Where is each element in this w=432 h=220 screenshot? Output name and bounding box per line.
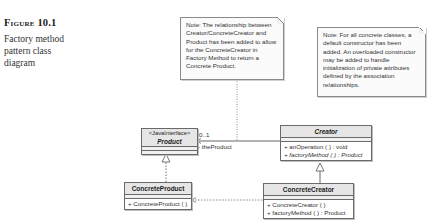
class-product: <JavaInterface> Product [141,128,198,155]
class-concrete-product: ConcreteProduct + ConcreteProduct ( ) [124,182,192,210]
class-product-header: <JavaInterface> Product [142,129,197,147]
association-multiplicity: 0..1 [199,131,209,138]
class-concrete-product-operations: + ConcreteProduct ( ) [125,199,191,209]
class-concrete-creator-operations: + ConcreteCreator ( ) + factoryMethod ( … [264,200,353,218]
class-concrete-creator-name: ConcreteCreator [264,184,353,196]
class-product-stereotype: <JavaInterface> [142,130,197,138]
note-constructors: Note: For all concrete classes, a defaul… [317,27,426,97]
association-role: - theProduct [198,143,232,150]
op-anoperation: + anOperation ( ) : void [284,143,368,151]
note-constructors-text: Note: For all concrete classes, a defaul… [323,31,416,88]
class-creator-operations: + anOperation ( ) : void + factoryMethod… [281,142,371,160]
class-creator: Creator + anOperation ( ) : void + facto… [280,125,372,161]
class-product-name: Product [142,138,197,146]
note-relationship-text: Note: The relationship between Creator/C… [186,21,276,69]
class-concrete-product-name: ConcreteProduct [125,183,191,195]
op-concreteproduct-ctor: + ConcreteProduct ( ) [128,200,188,208]
op-concretecreator-factorymethod: + factoryMethod ( ) : Product [267,209,350,217]
op-concretecreator-ctor: + ConcreteCreator ( ) [267,201,350,209]
class-product-operations [142,151,197,154]
class-creator-name: Creator [281,126,371,138]
note-relationship: Note: The relationship between Creator/C… [180,17,284,80]
op-factorymethod: + factoryMethod ( ) : Product [284,151,368,159]
class-concrete-creator: ConcreteCreator + ConcreteCreator ( ) + … [263,183,354,219]
